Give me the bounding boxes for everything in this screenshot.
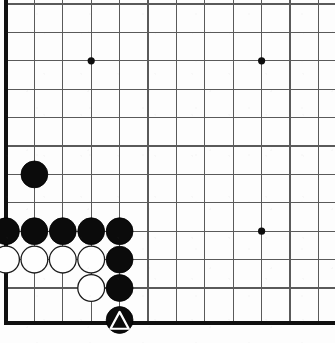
board-edge-lines (4, 0, 335, 323)
white-stone-row-b1[interactable] (0, 246, 19, 273)
white-stone-row-b3[interactable] (49, 246, 76, 273)
white-stone-lower-d[interactable] (78, 275, 105, 302)
black-stone-row-a4[interactable] (78, 218, 105, 245)
white-stone-row-b2[interactable] (21, 246, 48, 273)
star-point-lower-right (258, 228, 265, 235)
black-stone-row-a2[interactable] (21, 218, 48, 245)
black-stone-row-a5[interactable] (106, 218, 133, 245)
black-stone-row-a3[interactable] (49, 218, 76, 245)
black-stone-lone[interactable] (21, 161, 48, 188)
grid-vertical-lines (6, 0, 318, 323)
go-board-diagram (0, 0, 335, 343)
star-point-upper-left (88, 57, 95, 64)
black-stone-wall-d[interactable] (106, 275, 133, 302)
go-board-svg[interactable] (0, 0, 335, 343)
stones-group[interactable] (0, 161, 133, 333)
black-stone-row-a1[interactable] (0, 218, 19, 245)
grid-horizontal-lines (6, 4, 335, 288)
black-stone-wall-c[interactable] (106, 246, 133, 273)
white-stone-row-b4[interactable] (78, 246, 105, 273)
star-point-upper-right (258, 57, 265, 64)
